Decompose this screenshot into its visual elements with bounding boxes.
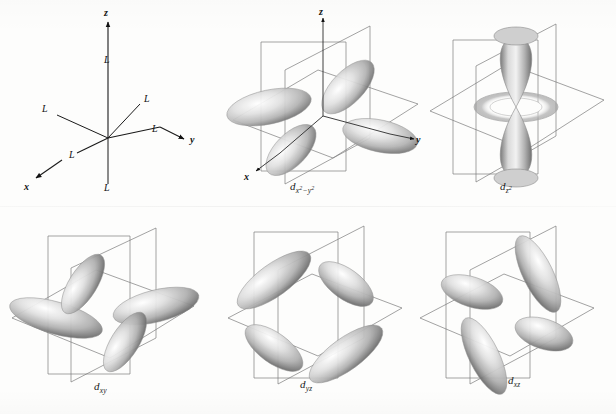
lobe-4 (511, 310, 577, 357)
axis-y-arrow (160, 127, 184, 139)
ligand-label-y-left: L (41, 103, 48, 114)
caption-sub-xz: xz (514, 380, 521, 389)
lobe-1 (506, 230, 570, 319)
caption-exp-2: 2 (311, 185, 314, 191)
orbital-lobes (229, 241, 391, 393)
dz2-svg (428, 14, 613, 199)
ligand-field-svg: z y x L L L L L L (0, 0, 230, 205)
lobe-2 (452, 312, 516, 401)
lobe-3 (53, 248, 113, 321)
panel-dz2: dz2 (428, 14, 613, 199)
axis-x-line (77, 138, 108, 153)
caption-exp-1: 2 (509, 185, 512, 191)
panel-dxz: dxz (410, 222, 610, 402)
dxy-svg (8, 222, 208, 402)
lobe-3 (437, 268, 507, 316)
axis-label-y: y (415, 134, 421, 145)
page-seam (0, 206, 616, 207)
axis-label-x: x (243, 171, 249, 182)
caption-dxy: dxy (94, 380, 107, 395)
panel-dxy: dxy (8, 222, 208, 402)
axis-x-arrow (36, 160, 62, 178)
caption-sub-yz: yz (306, 384, 313, 393)
bond-x-front (108, 104, 140, 138)
panel-dyz: dyz (212, 222, 408, 402)
reference-planes (420, 226, 594, 384)
axis-label-x: x (23, 181, 29, 192)
axis-label-z: z (103, 7, 108, 18)
lobe-cap-top (494, 27, 538, 45)
dx2y2-svg: z y x (228, 8, 423, 198)
bond-y-back (57, 115, 108, 138)
dyz-svg (212, 222, 408, 402)
lobe-3 (311, 253, 380, 315)
axis-label-z: z (318, 6, 323, 17)
caption-dz2: dz2 (500, 180, 512, 195)
axis-label-y: y (189, 134, 195, 145)
caption-dyz: dyz (300, 378, 312, 393)
lobe-1 (5, 289, 106, 346)
lobe-2 (301, 315, 391, 393)
lobe-y-positive (340, 112, 421, 159)
ligand-label-x-back: L (143, 93, 150, 104)
caption-dxz: dxz (508, 374, 520, 389)
orbital-figure: z y x L L L L L L (0, 0, 616, 414)
caption-sub-xy: xy (100, 386, 107, 395)
panel-dx2-y2: z y x dx2−y2 (228, 8, 423, 198)
caption-dx2-y2: dx2−y2 (290, 180, 314, 195)
ligand-label-x-front: L (68, 149, 75, 160)
lobe-x-positive (257, 116, 324, 184)
ligand-label-y-right: L (151, 123, 158, 134)
panel-ligand-field: z y x L L L L L L (0, 0, 230, 205)
ligand-label-z-up: L (103, 54, 110, 65)
ligand-label-z-down: L (103, 182, 110, 193)
lobe-1 (229, 241, 319, 319)
caption-sub-y: −y (302, 186, 311, 195)
orbital-lobes (5, 248, 202, 379)
